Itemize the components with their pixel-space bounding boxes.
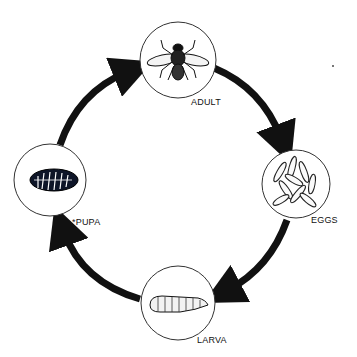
- arrow-adult-to-eggs: [214, 68, 281, 138]
- life-cycle-diagram: [0, 0, 357, 357]
- arrow-pupa-to-adult: [60, 72, 127, 145]
- eggs-label: EGGS: [311, 215, 338, 225]
- eggs-stage: [262, 150, 330, 218]
- arrow-eggs-to-larva: [228, 220, 287, 290]
- pupa-label: *PUPA: [72, 217, 100, 227]
- stray-dot: [332, 65, 334, 67]
- pupa-icon: [30, 169, 78, 191]
- pupa-stage: [14, 144, 86, 216]
- adult-label: ADULT: [191, 97, 221, 107]
- larva-label: LARVA: [197, 335, 227, 345]
- larva-stage: [141, 266, 215, 340]
- adult-stage: [140, 22, 216, 98]
- arrow-larva-to-pupa: [64, 232, 140, 299]
